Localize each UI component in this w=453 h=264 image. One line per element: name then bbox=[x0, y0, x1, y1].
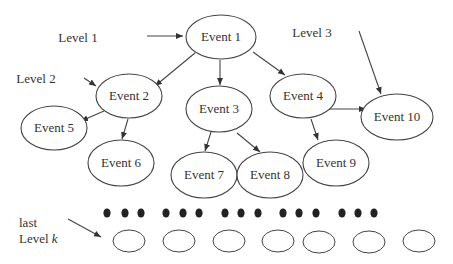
node-label: Event 8 bbox=[250, 167, 290, 182]
edge-e3-e7 bbox=[205, 132, 211, 151]
event-node-e3: Event 3 bbox=[186, 86, 252, 132]
last-level-nodes bbox=[113, 230, 435, 253]
last-level-prefix: Level bbox=[19, 231, 52, 246]
event-node-e6: Event 6 bbox=[88, 140, 154, 186]
event-node-e4: Event 4 bbox=[270, 74, 336, 118]
ellipsis-dot bbox=[237, 208, 244, 217]
ellipsis-dot bbox=[279, 208, 286, 217]
last-level-label-line2: Level k bbox=[19, 231, 58, 246]
edge-e2-e6 bbox=[122, 119, 128, 139]
dot-group bbox=[162, 208, 202, 217]
level-label-level1: Level 1 bbox=[58, 30, 97, 45]
ellipsis-dot bbox=[195, 208, 202, 217]
edge-e4-e9 bbox=[311, 119, 318, 140]
node-label: Event 7 bbox=[184, 167, 225, 182]
ellipsis-dot bbox=[179, 208, 186, 217]
ellipsis-dot bbox=[370, 208, 377, 217]
last-level-node bbox=[403, 230, 435, 252]
dot-group bbox=[221, 208, 261, 217]
event-node-e2: Event 2 bbox=[96, 74, 162, 118]
edge-e1-e4 bbox=[253, 52, 285, 75]
last-level-node bbox=[163, 230, 195, 252]
ellipsis-dot bbox=[254, 208, 261, 217]
level3-arrow bbox=[359, 31, 381, 94]
event-node-e10: Event 10 bbox=[361, 94, 433, 140]
last-level-node bbox=[113, 230, 145, 252]
last-level-node bbox=[262, 230, 294, 252]
node-label: Event 6 bbox=[101, 155, 142, 170]
event-node-e7: Event 7 bbox=[171, 152, 237, 198]
last-level-node bbox=[213, 230, 245, 252]
node-label: Event 4 bbox=[283, 88, 324, 103]
level2-arrow bbox=[84, 78, 96, 86]
last-level-node bbox=[303, 231, 335, 253]
ellipsis-dot bbox=[121, 208, 128, 217]
event-tree-diagram: Event 1Event 2Event 3Event 4Event 5Event… bbox=[0, 0, 453, 264]
node-label: Event 9 bbox=[316, 155, 356, 170]
dot-group bbox=[103, 208, 144, 217]
ellipsis-dot bbox=[221, 208, 228, 217]
ellipsis-dot bbox=[354, 208, 361, 217]
last-level-variable: k bbox=[52, 231, 58, 246]
last-level-label-line1: last bbox=[19, 215, 37, 230]
node-label: Event 2 bbox=[109, 88, 149, 103]
event-node-e5: Event 5 bbox=[21, 106, 87, 150]
node-label: Event 5 bbox=[34, 120, 74, 135]
ellipsis-dot bbox=[103, 208, 110, 217]
level-label-level3: Level 3 bbox=[292, 25, 331, 40]
ellipsis-dot bbox=[137, 208, 144, 217]
edge-e1-e2 bbox=[155, 53, 195, 86]
ellipsis-dot bbox=[312, 208, 319, 217]
event-node-e8: Event 8 bbox=[237, 152, 303, 198]
edge-e3-e8 bbox=[237, 133, 260, 152]
event-node-e1: Event 1 bbox=[186, 15, 256, 59]
ellipsis-dot bbox=[338, 208, 345, 217]
event-node-e9: Event 9 bbox=[303, 140, 369, 186]
node-label: Event 1 bbox=[201, 29, 241, 44]
level-pointer-arrows bbox=[68, 31, 381, 237]
node-label: Event 10 bbox=[374, 109, 421, 124]
dot-group bbox=[338, 208, 377, 217]
ellipsis-dots bbox=[103, 208, 377, 217]
last-level-arrow bbox=[68, 219, 101, 237]
dot-group bbox=[279, 208, 319, 217]
node-label: Event 3 bbox=[199, 101, 239, 116]
ellipsis-dot bbox=[295, 208, 302, 217]
ellipsis-dot bbox=[162, 208, 169, 217]
level-label-level2: Level 2 bbox=[16, 71, 55, 86]
last-level-node bbox=[353, 231, 385, 253]
